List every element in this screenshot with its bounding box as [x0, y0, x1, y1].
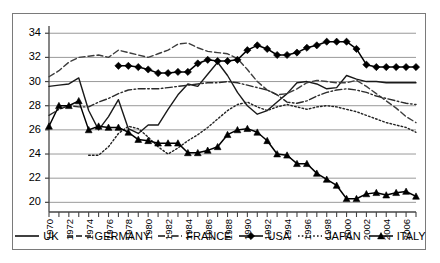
data-point-marker [248, 232, 255, 239]
data-point-marker [373, 63, 380, 70]
y-tick-label: 32 [19, 51, 41, 62]
legend-swatch [368, 231, 394, 241]
data-point-marker [214, 57, 221, 64]
series-usa [115, 38, 420, 77]
y-tick-label: 26 [19, 124, 41, 135]
chart-legend: UKGERMANYFRANCEUSAJAPANITALY [13, 226, 427, 246]
legend-item-japan[interactable]: JAPAN [297, 230, 361, 242]
series-line [49, 62, 416, 133]
legend-swatch [297, 231, 323, 241]
data-point-marker [293, 49, 300, 56]
data-point-marker [413, 193, 420, 199]
data-point-marker [323, 176, 330, 182]
data-point-marker [402, 63, 409, 70]
data-point-marker [224, 131, 231, 137]
legend-item-usa[interactable]: USA [238, 230, 290, 242]
data-point-marker [412, 63, 419, 70]
legend-label: FRANCE [186, 230, 231, 242]
data-point-marker [283, 51, 290, 58]
legend-swatch [238, 231, 264, 241]
data-point-marker [383, 63, 390, 70]
data-point-marker [155, 70, 162, 77]
legend-item-italy[interactable]: ITALY [368, 230, 426, 242]
data-point-marker [333, 182, 340, 188]
legend-label: USA [267, 230, 290, 242]
plot-area: 2022242628303234 19701972197419761978198… [13, 14, 427, 251]
data-point-marker [393, 63, 400, 70]
legend-label: JAPAN [326, 230, 361, 242]
data-point-marker [125, 62, 132, 69]
data-point-marker [135, 63, 142, 70]
data-point-marker [174, 68, 181, 75]
data-point-marker [204, 56, 211, 63]
legend-label: ITALY [397, 230, 426, 242]
y-tick-label: 20 [19, 196, 41, 207]
legend-swatch [157, 231, 183, 241]
y-tick-label: 22 [19, 172, 41, 183]
data-point-marker [313, 42, 320, 49]
legend-swatch [14, 231, 40, 241]
chart-frame: 2022242628303234 19701972197419761978198… [12, 13, 426, 250]
data-point-marker [254, 42, 261, 49]
legend-item-france[interactable]: FRANCE [157, 230, 231, 242]
data-point-marker [46, 123, 53, 129]
data-point-marker [274, 51, 281, 58]
series-france [49, 82, 416, 116]
data-point-marker [264, 45, 271, 52]
series-layer [13, 14, 427, 251]
data-point-marker [224, 57, 231, 64]
y-tick-label: 28 [19, 100, 41, 111]
data-point-marker [75, 97, 82, 103]
data-point-marker [363, 61, 370, 68]
series-line [49, 101, 416, 199]
data-point-marker [115, 62, 122, 69]
series-italy [46, 97, 420, 201]
legend-item-uk[interactable]: UK [14, 230, 58, 242]
y-tick-label: 30 [19, 76, 41, 87]
legend-label: UK [43, 230, 58, 242]
series-uk [49, 62, 416, 133]
series-line [49, 82, 416, 116]
legend-item-germany[interactable]: GERMANY [66, 230, 151, 242]
y-tick-label: 34 [19, 27, 41, 38]
data-point-marker [303, 44, 310, 51]
data-point-marker [333, 38, 340, 45]
data-point-marker [323, 38, 330, 45]
data-point-marker [164, 70, 171, 77]
y-tick-label: 24 [19, 148, 41, 159]
legend-swatch [66, 231, 92, 241]
data-point-marker [145, 66, 152, 73]
legend-label: GERMANY [95, 230, 151, 242]
